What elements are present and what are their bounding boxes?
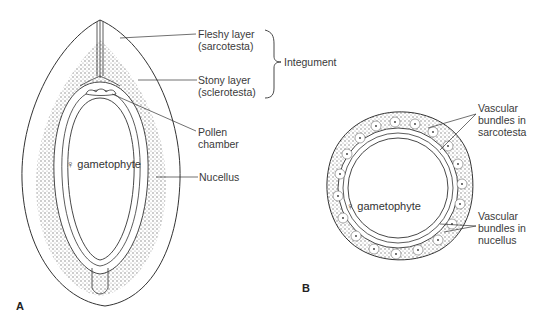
vascular-nucellus-label: Vascular bundles in nucellus <box>478 210 526 246</box>
integument-label: Integument <box>284 56 337 68</box>
gametophyte-label-b: ♀ gametophyte <box>346 200 421 212</box>
stony-layer-label: Stony layer (sclerotesta) <box>198 74 256 98</box>
nucellus-label: Nucellus <box>199 171 239 183</box>
integument-bracket <box>265 30 281 98</box>
panel-b-drawing <box>327 112 476 260</box>
panel-a-drawing <box>22 20 281 306</box>
gametophyte-circle <box>348 138 448 238</box>
pollen-chamber <box>86 89 116 96</box>
pollen-chamber-label: Pollen chamber <box>198 126 239 150</box>
vascular-sarcotesta-label: Vascular bundles in sarcotesta <box>478 102 526 138</box>
fleshy-layer-label: Fleshy layer (sarcotesta) <box>198 28 255 52</box>
gametophyte-label-a: ♀ gametophyte <box>66 158 141 170</box>
panel-label-a: A <box>16 300 24 312</box>
panel-label-b: B <box>302 282 310 294</box>
